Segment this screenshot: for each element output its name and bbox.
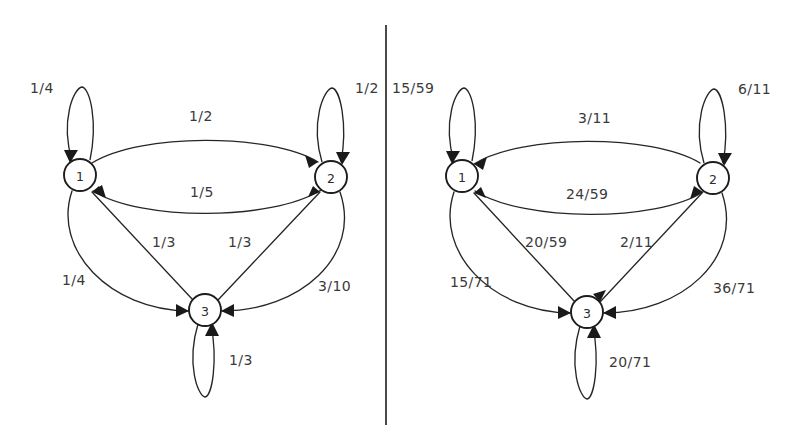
right-edge-1-to-3 (450, 192, 571, 319)
left-label-selfloop-1: 1/4 (30, 80, 54, 96)
right-label-edge-2-1: 24/59 (566, 186, 608, 202)
left-node-1-label: 1 (76, 169, 84, 184)
left-edge-1-to-2 (92, 140, 318, 168)
left-label-edge-3-1: 1/3 (152, 234, 176, 250)
arrowhead-into-3-right (221, 304, 234, 317)
left-edge-1-to-3 (68, 191, 189, 317)
right-markov-diagram: 1 2 3 (446, 88, 732, 399)
left-selfloop-1 (64, 87, 93, 163)
right-selfloop-1 (446, 88, 475, 164)
right-edge-2-to-3 (603, 193, 726, 319)
left-label-edge-2-3: 3/10 (318, 278, 351, 294)
right-label-selfloop-3: 20/71 (609, 354, 651, 370)
diagram-canvas: 1 2 3 (0, 0, 811, 447)
right-label-edge-2-3: 36/71 (713, 280, 755, 296)
arrowhead-into-3-left-right (558, 306, 571, 319)
left-label-edge-2-1: 1/5 (190, 184, 214, 200)
right-selfloop-3 (575, 324, 601, 399)
vertical-divider (385, 25, 387, 425)
left-edge-3-to-1 (92, 186, 193, 300)
left-label-edge-1-3: 1/4 (62, 272, 86, 288)
arrowhead-into-2-top (305, 155, 318, 168)
right-node-2[interactable]: 2 (697, 162, 729, 194)
left-label-selfloop-2: 1/2 (355, 80, 379, 96)
left-node-2-label: 2 (327, 171, 335, 186)
right-node-3-label: 3 (583, 306, 591, 321)
right-label-selfloop-2: 6/11 (738, 81, 771, 97)
left-selfloop-2 (317, 88, 350, 165)
right-label-edge-3-2: 2/11 (620, 234, 653, 250)
arrowhead-into-3-left (176, 304, 189, 317)
arrowhead-into-1-from-3-right (474, 187, 486, 198)
right-label-edge-1-3: 15/71 (450, 274, 492, 290)
right-label-edge-1-2: 3/11 (578, 110, 611, 126)
right-node-1[interactable]: 1 (446, 160, 478, 192)
left-markov-diagram: 1 2 3 (64, 87, 350, 397)
right-selfloop-2 (699, 89, 732, 166)
left-selfloop-3 (193, 322, 219, 397)
right-label-edge-3-1: 20/59 (525, 234, 567, 250)
left-label-edge-1-2: 1/2 (189, 108, 213, 124)
arrowhead-into-3-right-right (603, 306, 616, 319)
left-label-edge-3-2: 1/3 (228, 234, 252, 250)
right-label-selfloop-1: 15/59 (392, 80, 434, 96)
right-node-1-label: 1 (458, 170, 466, 185)
left-node-3-label: 3 (201, 304, 209, 319)
left-edge-2-to-3 (221, 192, 344, 317)
left-node-1[interactable]: 1 (64, 159, 96, 191)
left-node-3[interactable]: 3 (189, 294, 221, 326)
graph-vector-layer: 1 2 3 (0, 0, 811, 447)
right-edge-2-to-1-top (474, 141, 700, 170)
left-node-2[interactable]: 2 (315, 161, 347, 193)
right-node-2-label: 2 (709, 172, 717, 187)
right-node-3[interactable]: 3 (571, 296, 603, 328)
left-label-selfloop-3: 1/3 (229, 352, 253, 368)
